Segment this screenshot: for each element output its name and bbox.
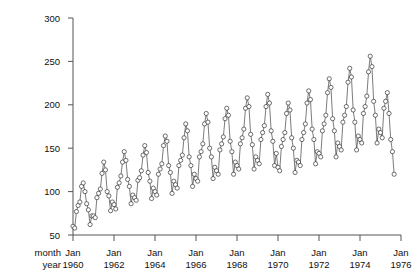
data-point-marker [211,176,215,180]
data-point-marker [74,209,78,213]
data-point-marker [269,129,273,133]
data-point-marker [389,137,393,141]
data-point-marker [134,198,138,202]
data-point-marker [279,144,283,148]
data-point-marker [274,151,278,155]
data-point-marker [308,97,312,101]
x-tick-year-label: 1962 [103,259,124,270]
time-series-chart: 50100150200250300 Jan1960Jan1962Jan1964J… [0,0,412,280]
data-point-marker [168,170,172,174]
data-point-marker [108,209,112,213]
data-point-marker [344,104,348,108]
x-tick-year-label: 1972 [308,259,329,270]
data-point-marker [86,208,90,212]
data-point-marker [192,172,196,176]
data-point-marker [245,96,249,100]
data-point-marker [149,196,153,200]
data-point-marker [278,169,282,173]
x-tick-month-label: Jan [270,247,285,258]
data-point-marker [300,137,304,141]
data-point-marker [242,127,246,131]
data-point-marker [103,168,107,172]
data-point-marker [370,65,374,69]
data-point-marker [373,113,377,117]
data-point-marker [124,158,128,162]
data-point-marker [303,122,307,126]
x-axis-tick-labels: Jan1960Jan1962Jan1964Jan1966Jan1968Jan19… [62,247,411,270]
data-point-marker [126,177,130,181]
data-point-marker [148,179,152,183]
x-tick-year-label: 1968 [226,259,247,270]
data-point-marker [206,120,210,124]
data-point-marker [332,129,336,133]
data-point-marker [322,122,326,126]
data-point-marker [182,136,186,140]
data-point-marker [319,155,323,159]
data-point-marker [100,171,104,175]
x-tick-year-label: 1964 [144,259,165,270]
data-point-marker [293,170,297,174]
data-point-marker [366,70,370,74]
x-tick-year-label: 1966 [185,259,206,270]
data-point-marker [83,190,87,194]
data-point-marker [81,181,85,185]
data-point-marker [360,141,364,145]
data-point-marker [190,184,194,188]
data-point-marker [199,150,203,154]
data-point-marker [266,92,270,96]
data-point-marker [196,179,200,183]
data-point-marker [385,91,389,95]
data-point-marker [298,163,302,167]
data-point-marker [143,144,147,148]
data-point-marker [353,120,357,124]
data-point-marker [223,117,227,121]
data-point-marker [283,130,287,134]
data-point-marker [238,142,242,146]
data-point-marker [271,139,275,143]
y-tick-label: 150 [44,143,60,154]
data-point-marker [88,222,92,226]
x-tick-month-label: Jan [311,247,326,258]
y-tick-label: 200 [44,99,60,110]
data-point-marker [220,142,224,146]
data-point-marker [390,150,394,154]
data-point-marker [161,144,165,148]
data-point-marker [93,216,97,220]
data-point-marker [281,137,285,141]
data-point-marker [310,127,314,131]
data-point-marker [305,101,309,105]
data-point-marker [261,130,265,134]
data-point-marker [382,106,386,110]
data-point-marker [185,129,189,133]
y-tick-label: 250 [44,56,60,67]
data-point-marker [334,155,338,159]
data-point-marker [127,184,131,188]
data-point-marker [226,113,230,117]
data-point-marker [122,150,126,154]
data-point-marker [155,193,159,197]
data-point-marker [156,172,160,176]
data-point-marker [259,137,263,141]
data-point-marker [139,169,143,173]
data-point-marker [368,54,372,58]
data-point-marker [327,77,331,81]
data-point-marker [354,148,358,152]
data-point-marker [250,143,254,147]
x-tick-month-label: Jan [352,247,367,258]
data-point-marker [384,99,388,103]
data-point-marker [216,172,220,176]
data-point-marker [262,124,266,128]
data-point-marker [98,187,102,191]
x-axis-row-label-year: year [43,259,61,270]
data-point-marker [341,120,345,124]
data-point-marker [218,148,222,152]
data-point-marker [144,150,148,154]
x-tick-month-label: Jan [393,247,408,258]
data-point-marker [240,136,244,140]
data-point-marker [105,190,109,194]
data-point-marker [329,85,333,89]
x-tick-month-label: Jan [188,247,203,258]
data-point-marker [129,202,133,206]
data-point-marker [284,111,288,115]
data-point-marker [208,146,212,150]
